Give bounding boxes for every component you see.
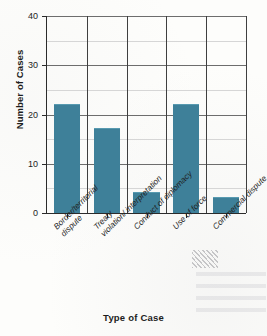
gridline-minor (47, 41, 246, 42)
x-axis-title: Type of Case (0, 312, 267, 323)
gridline-vertical (246, 16, 247, 213)
y-tick-label: 30 (28, 60, 38, 70)
x-axis-tick-labels: Border/territorialdisputeTreatyviolation… (0, 213, 267, 303)
gridline-major (47, 16, 246, 17)
y-tick-mark (42, 115, 47, 116)
gridline-vertical (166, 16, 167, 213)
y-tick-label: 40 (28, 11, 38, 21)
gridline-vertical (127, 16, 128, 213)
y-tick-label: 10 (28, 159, 38, 169)
gridline-major (47, 65, 246, 66)
bar (173, 104, 199, 213)
y-tick-mark (42, 164, 47, 165)
y-tick-label: 20 (28, 110, 38, 120)
gridline-vertical (206, 16, 207, 213)
gridline-minor (47, 90, 246, 91)
bar (54, 104, 80, 213)
gridline-vertical (87, 16, 88, 213)
y-tick-mark (42, 65, 47, 66)
y-tick-mark (42, 16, 47, 17)
